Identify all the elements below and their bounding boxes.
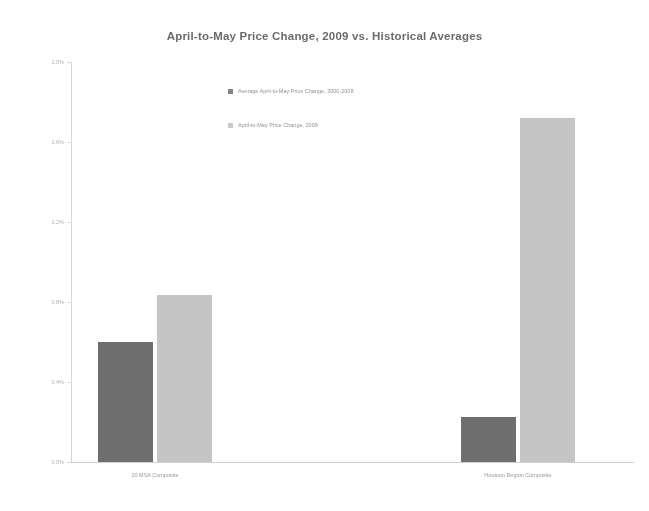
x-axis-category-label: Houston Region Composite: [484, 472, 551, 478]
legend-label-average: Average April-to-May Price Change, 2000-…: [238, 88, 353, 94]
chart-title: April-to-May Price Change, 2009 vs. Hist…: [0, 30, 649, 42]
y-axis-tick-mark: [67, 222, 71, 223]
x-axis-category-label: 20 MSA Composite: [131, 472, 178, 478]
bar-average: [98, 342, 153, 462]
bar-2009: [520, 118, 575, 462]
legend-swatch-icon-average: [228, 89, 233, 94]
y-axis-tick-label: 0.0%: [30, 459, 64, 465]
y-axis-tick-label: 1.2%: [30, 219, 64, 225]
y-axis-tick-mark: [67, 62, 71, 63]
y-axis-tick-mark: [67, 382, 71, 383]
y-axis-tick-label: 0.8%: [30, 299, 64, 305]
y-axis-tick-label: 2.0%: [30, 59, 64, 65]
legend-item-average: Average April-to-May Price Change, 2000-…: [228, 86, 488, 96]
bar-average: [461, 417, 516, 462]
y-axis-tick-mark: [67, 142, 71, 143]
legend-swatch-icon-2009: [228, 123, 233, 128]
chart-legend: Average April-to-May Price Change, 2000-…: [228, 86, 488, 154]
y-axis-tick-label: 0.4%: [30, 379, 64, 385]
y-axis-tick-mark: [67, 302, 71, 303]
legend-item-2009: April-to-May Price Change, 2009: [228, 120, 488, 130]
y-axis-tick-mark: [67, 462, 71, 463]
bar-2009: [157, 295, 212, 462]
y-axis-tick-label: 1.6%: [30, 139, 64, 145]
legend-label-2009: April-to-May Price Change, 2009: [238, 122, 318, 128]
x-axis-line: [71, 462, 634, 463]
bar-chart: April-to-May Price Change, 2009 vs. Hist…: [0, 0, 649, 511]
